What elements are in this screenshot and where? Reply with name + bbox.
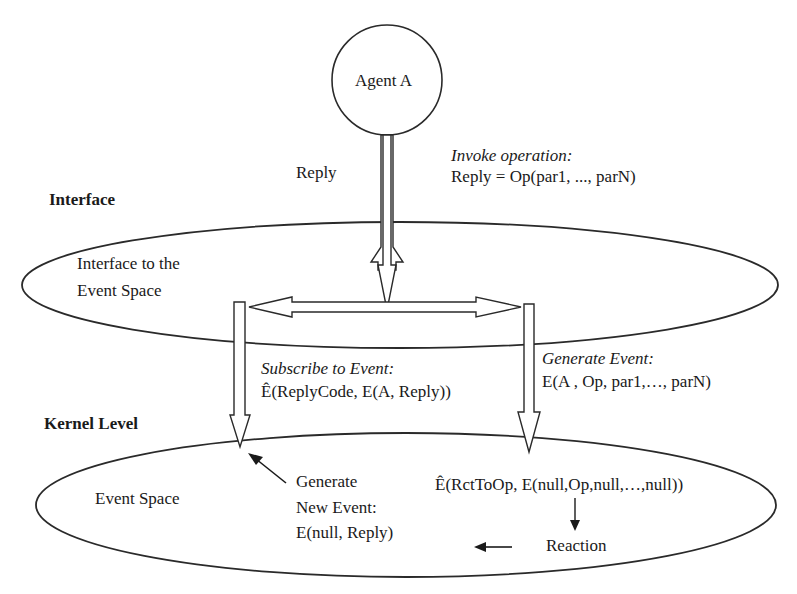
generate-event-expression: E(A , Op, par1,…, parN) — [542, 371, 711, 393]
invoke-expression: Reply = Op(par1, ..., parN) — [451, 166, 636, 188]
new-event-line1: Generate — [296, 471, 357, 493]
event-space-label: Event Space — [95, 488, 180, 510]
generate-event-title: Generate Event: — [542, 348, 654, 370]
subscribe-down-arrow — [230, 302, 250, 447]
new-event-diagonal-arrow — [248, 453, 286, 483]
agent-label: Agent A — [355, 70, 412, 92]
new-event-line3: E(null, Reply) — [296, 522, 393, 544]
new-event-line2: New Event: — [296, 497, 377, 519]
kernel-level-label: Kernel Level — [44, 413, 138, 435]
reaction-label: Reaction — [546, 535, 606, 557]
reaction-down-arrow — [570, 498, 580, 531]
reaction-left-arrow — [474, 542, 512, 552]
reply-label: Reply — [296, 162, 337, 184]
subscribe-title: Subscribe to Event: — [261, 358, 394, 380]
interface-ellipse-label-line2: Event Space — [77, 280, 162, 302]
subscribe-expression: Ê(ReplyCode, E(A, Reply)) — [261, 381, 451, 403]
interface-ellipse-label-line1: Interface to the — [77, 253, 180, 275]
invoke-title: Invoke operation: — [451, 145, 572, 167]
generate-down-arrow — [518, 304, 540, 452]
interface-level-label: Interface — [49, 189, 115, 211]
reaction-subscription-expression: Ê(RctToOp, E(null,Op,null,…,null)) — [435, 474, 683, 496]
